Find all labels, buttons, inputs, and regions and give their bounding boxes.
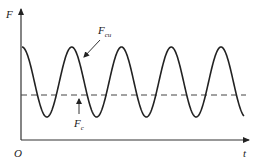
oscillating-force-label-sub: cu (105, 31, 112, 39)
origin-label: O (14, 147, 22, 159)
force-time-diagram: F t O Fcu Fc (0, 0, 262, 165)
oscillating-force-curve (22, 47, 244, 117)
y-axis-label: F (5, 8, 13, 20)
x-axis-label: t (243, 147, 247, 159)
pointer-arrow-fcu (84, 40, 100, 57)
constant-force-label: Fc (73, 117, 85, 132)
constant-force-label-sub: c (81, 124, 85, 132)
oscillating-force-label: Fcu (97, 24, 112, 39)
